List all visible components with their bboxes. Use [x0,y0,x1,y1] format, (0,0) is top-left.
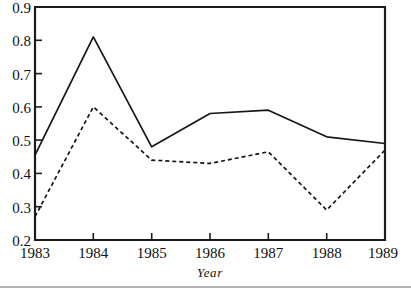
y-tick-label-0.3: 0.3 [12,200,31,216]
x-tick-label-1987: 1987 [253,245,284,261]
x-tick-label-1988: 1988 [312,245,342,261]
series-line-dashed [35,107,385,217]
chart-figure: 0.9 0.8 0.7 0.6 0.5 0.4 0.3 0.2 1983 198… [0,0,411,289]
x-axis-title: Year [197,265,223,280]
y-tick-label-0.7: 0.7 [12,67,31,83]
y-axis-tick-labels: 0.9 0.8 0.7 0.6 0.5 0.4 0.3 0.2 [12,0,31,249]
x-tick-label-1983: 1983 [20,245,50,261]
series-line-solid [35,37,385,155]
x-tick-label-1986: 1986 [195,245,226,261]
x-tick-label-1984: 1984 [78,245,109,261]
line-chart-svg: 0.9 0.8 0.7 0.6 0.5 0.4 0.3 0.2 1983 198… [0,0,411,289]
x-axis-tick-labels: 1983 1984 1985 1986 1987 1988 1989 [20,245,398,261]
y-tick-label-0.9: 0.9 [12,0,31,16]
x-tick-label-1989: 1989 [368,245,398,261]
y-tick-label-0.8: 0.8 [12,33,31,49]
y-tick-label-0.4: 0.4 [12,166,31,182]
x-tick-label-1985: 1985 [137,245,167,261]
y-tick-label-0.6: 0.6 [12,100,31,116]
y-tick-label-0.5: 0.5 [12,133,31,149]
plot-frame [35,7,385,240]
